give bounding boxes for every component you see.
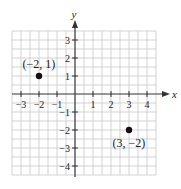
data-point-label: (−2, 1)	[23, 57, 56, 71]
y-tick-label: 1	[65, 71, 70, 82]
x-tick-label: 1	[91, 99, 96, 110]
x-axis-label: x	[171, 88, 177, 100]
x-tick-label: −3	[16, 99, 27, 110]
y-tick-label: −3	[59, 143, 70, 154]
y-tick-label: −4	[59, 161, 70, 172]
x-tick-label: −2	[34, 99, 45, 110]
y-axis-label: y	[71, 8, 77, 20]
x-tick-label: 2	[109, 99, 114, 110]
y-tick-label: 3	[65, 35, 70, 46]
x-axis-arrow-icon	[162, 91, 170, 97]
data-point	[126, 127, 132, 133]
y-axis-arrow-icon	[72, 20, 78, 28]
y-tick-label: −1	[59, 107, 70, 118]
coordinate-plane: −3−2−11234−4−3−2−1123 x y (−2, 1)(3, −2)	[0, 0, 181, 189]
data-point-label: (3, −2)	[113, 136, 146, 150]
y-tick-label: 2	[65, 53, 70, 64]
data-point	[36, 73, 42, 79]
y-tick-label: −2	[59, 125, 70, 136]
x-tick-label: 4	[145, 99, 150, 110]
x-tick-label: 3	[127, 99, 132, 110]
